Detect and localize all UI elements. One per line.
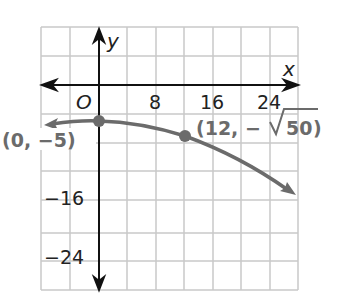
x-tick-8: 8 (149, 91, 161, 113)
x-tick-24: 24 (257, 91, 281, 113)
point-label-0-neg5: (0, −5) (2, 129, 76, 151)
y-tick-neg24: −24 (44, 246, 84, 268)
point-0-neg5 (93, 115, 105, 127)
origin-label: O (76, 90, 92, 114)
x-tick-16: 16 (200, 91, 224, 113)
point-label-12-prefix: (12, − (196, 117, 261, 139)
y-axis-label: y (106, 29, 120, 53)
curve-right-arrow-icon (280, 182, 296, 195)
y-tick-neg16: −16 (44, 187, 84, 209)
coordinate-plane: y x O 8 16 24 −16 −24 (0, −5) (12, − 50 … (0, 0, 345, 297)
x-axis-label: x (282, 57, 295, 81)
point-12-negsqrt50 (179, 130, 191, 142)
point-label-12-suffix: ) (313, 117, 322, 139)
point-label-12-radicand: 50 (286, 117, 312, 139)
